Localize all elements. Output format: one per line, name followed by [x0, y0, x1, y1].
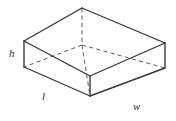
rectangular-prism-drawing [0, 0, 176, 121]
height-label: h [9, 48, 15, 59]
width-label: w [133, 101, 140, 112]
rectangular-prism-figure: h l w [0, 0, 176, 121]
length-label: l [42, 91, 45, 102]
